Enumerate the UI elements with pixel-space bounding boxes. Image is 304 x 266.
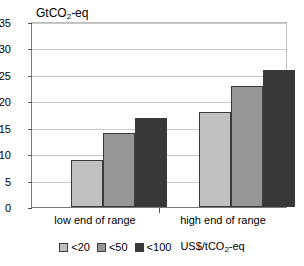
y-axis-title: GtCO2-eq (36, 6, 88, 22)
y-axis-title-post: -eq (71, 6, 88, 20)
legend-entry-lt20: <20 (59, 241, 90, 254)
legend-swatch-icon-lt50 (97, 243, 106, 252)
legend-label-lt20: <20 (71, 241, 90, 254)
bar-low-lt100 (135, 118, 167, 207)
bars-layer (32, 23, 286, 207)
bar-chart: GtCO2-eq 35 30 25 20 15 10 5 0 (0, 0, 304, 266)
y-tick-label-0: 0 (0, 203, 11, 214)
legend-label-lt100: <100 (147, 241, 172, 254)
y-tick-label-15: 15 (0, 124, 11, 135)
legend-label-lt50: <50 (109, 241, 128, 254)
legend-units-post: -eq (229, 240, 245, 252)
legend-swatch-icon-lt100 (135, 243, 144, 252)
legend-swatch-icon-lt20 (59, 243, 68, 252)
legend: <20 <50 <100 US$/tCO2-eq (0, 240, 304, 254)
legend-entry-lt50: <50 (97, 241, 128, 254)
legend-units-pre: US$/tCO (180, 240, 224, 252)
y-axis-title-subscript: 2 (67, 12, 71, 21)
y-tick-label-20: 20 (0, 97, 11, 108)
legend-entry-lt100: <100 (135, 241, 172, 254)
y-tick-label-30: 30 (0, 44, 11, 55)
x-axis-group-tick (159, 208, 160, 213)
y-axis-title-pre: GtCO (36, 6, 67, 20)
y-tick-label-10: 10 (0, 150, 11, 161)
x-group-label-low: low end of range (31, 214, 159, 227)
legend-units: US$/tCO2-eq (180, 240, 244, 254)
plot-area: 35 30 25 20 15 10 5 0 (31, 22, 287, 208)
legend-units-subscript: 2 (224, 245, 228, 254)
bar-high-lt50 (231, 86, 263, 207)
y-tick-mark-0 (28, 208, 32, 209)
bar-high-lt100 (263, 70, 295, 207)
x-group-label-high: high end of range (159, 214, 287, 227)
bar-low-lt20 (71, 160, 103, 207)
y-tick-label-25: 25 (0, 71, 11, 82)
bar-low-lt50 (103, 133, 135, 207)
bar-high-lt20 (199, 112, 231, 207)
y-tick-label-35: 35 (0, 18, 11, 29)
y-tick-label-5: 5 (0, 177, 11, 188)
